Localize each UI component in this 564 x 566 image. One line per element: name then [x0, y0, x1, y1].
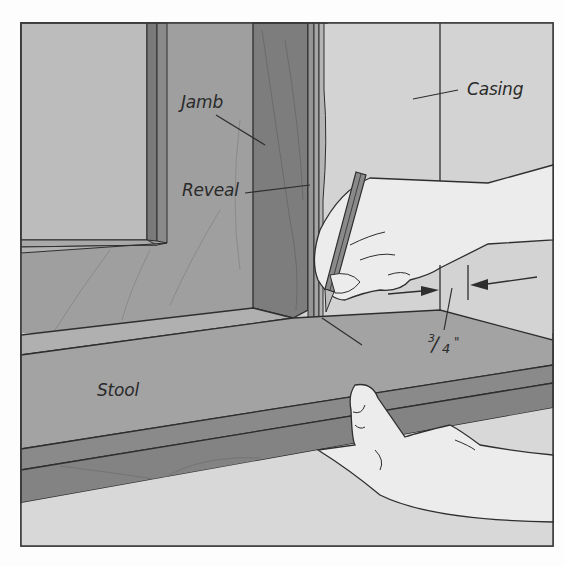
- glass-pane: [21, 23, 147, 240]
- stool-marking-illustration: Jamb Reveal Casing Stool 3 / 4 ": [0, 0, 564, 566]
- dimension-denominator: 4: [442, 341, 450, 356]
- sash-stop-left: [147, 23, 157, 241]
- sash-stop-right: [157, 23, 167, 243]
- label-jamb: Jamb: [181, 92, 223, 112]
- label-casing: Casing: [467, 79, 523, 99]
- reveal-strip: [308, 23, 314, 318]
- jamb: [253, 23, 308, 318]
- dimension-label: 3 / 4 ": [428, 338, 468, 362]
- label-stool: Stool: [97, 380, 139, 400]
- label-reveal: Reveal: [182, 180, 239, 200]
- dimension-unit: ": [454, 335, 460, 349]
